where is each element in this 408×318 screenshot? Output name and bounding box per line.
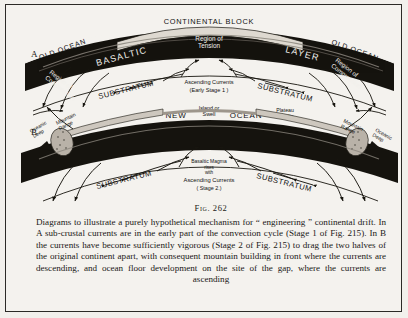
figure-caption: Diagrams to illustrate a purely hypothet… bbox=[36, 217, 386, 285]
figure-page: A CONTINENTAL BLOCK Region of Tension BA… bbox=[0, 0, 408, 318]
label-ascending-currents-a: Ascending Currents bbox=[184, 79, 233, 85]
label-substratum-left-b: SUBSTRATUM bbox=[95, 168, 152, 190]
label-ascending-currents-b: Ascending Currents bbox=[184, 177, 235, 183]
label-ascending-stage-a: (Early Stage 1 ) bbox=[190, 87, 229, 93]
panel-b: B Mountain Range Mountain Range Oceanic … bbox=[21, 107, 398, 201]
diagram-area: A CONTINENTAL BLOCK Region of Tension BA… bbox=[13, 11, 406, 203]
label-basaltic-magma-line1: Basaltic Magma bbox=[191, 158, 227, 164]
label-region-of-tension-line2: Tension bbox=[198, 42, 220, 49]
label-substratum-left-a: SUBSTRATUM bbox=[97, 78, 154, 100]
label-ascending-stage-b: ( Stage 2.) bbox=[196, 185, 221, 191]
panel-a: A CONTINENTAL BLOCK Region of Tension BA… bbox=[25, 17, 394, 115]
label-substratum-right-a: SUBSTRATUM bbox=[257, 81, 314, 103]
label-basaltic-magma-line3: with bbox=[205, 170, 214, 175]
label-continental-block: CONTINENTAL BLOCK bbox=[164, 17, 254, 26]
figure-number: Fig. 262 bbox=[36, 203, 386, 213]
caption-block: Fig. 262 Diagrams to illustrate a purely… bbox=[36, 203, 386, 285]
figure-frame: A CONTINENTAL BLOCK Region of Tension BA… bbox=[5, 4, 402, 312]
label-substratum-right-b: SUBSTRATUM bbox=[256, 171, 313, 193]
